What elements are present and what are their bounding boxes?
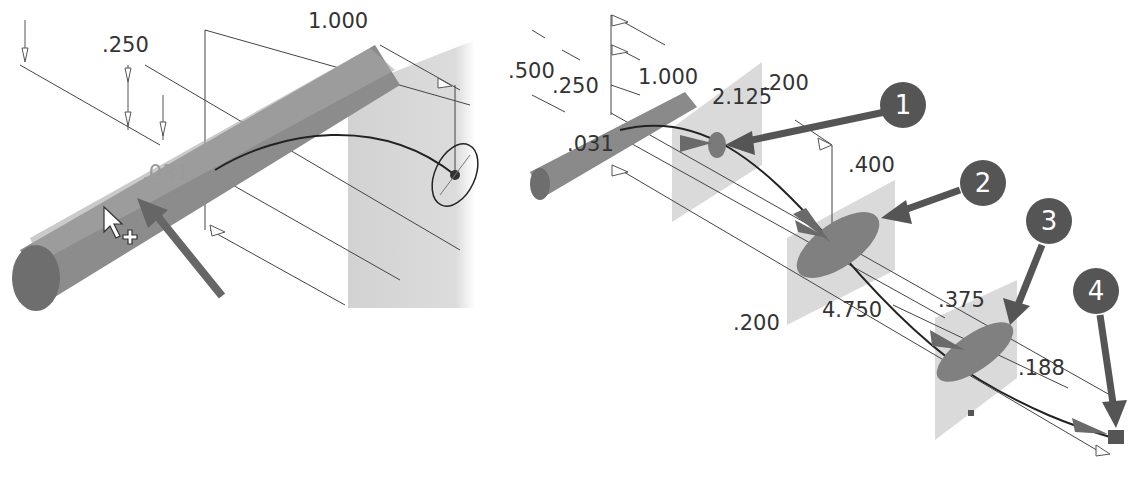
dim-400: .400 (848, 153, 895, 177)
callout-2-label: 2 (975, 168, 992, 198)
dim-500: .500 (508, 59, 555, 83)
dim-1000: 1.000 (638, 65, 698, 89)
dim-200-bottom: .200 (733, 311, 780, 335)
dim-031: .031 (142, 161, 189, 185)
dim-1000: 1.000 (308, 9, 368, 33)
dim-031: .031 (567, 132, 614, 156)
dim-188: .188 (1018, 356, 1065, 380)
dim-250: .250 (552, 74, 599, 98)
figure-canvas: 1.000 .250 .031 (0, 0, 1137, 486)
right-view: .500 .250 1.000 2.125 .200 .031 .400 .20… (508, 15, 1127, 456)
dim-200-top: .200 (762, 71, 809, 95)
callout-1-label: 1 (895, 90, 912, 120)
dim-375: .375 (938, 288, 985, 312)
callout-2: 2 (881, 160, 1006, 224)
left-view: 1.000 .250 .031 (12, 9, 487, 311)
callout-3-label: 3 (1041, 206, 1058, 236)
dim-4750: 4.750 (822, 298, 882, 322)
callout-4-label: 4 (1088, 276, 1105, 306)
callout-4: 4 (1073, 268, 1127, 428)
dim-250: .250 (102, 33, 149, 57)
callout-3: 3 (1003, 198, 1072, 325)
